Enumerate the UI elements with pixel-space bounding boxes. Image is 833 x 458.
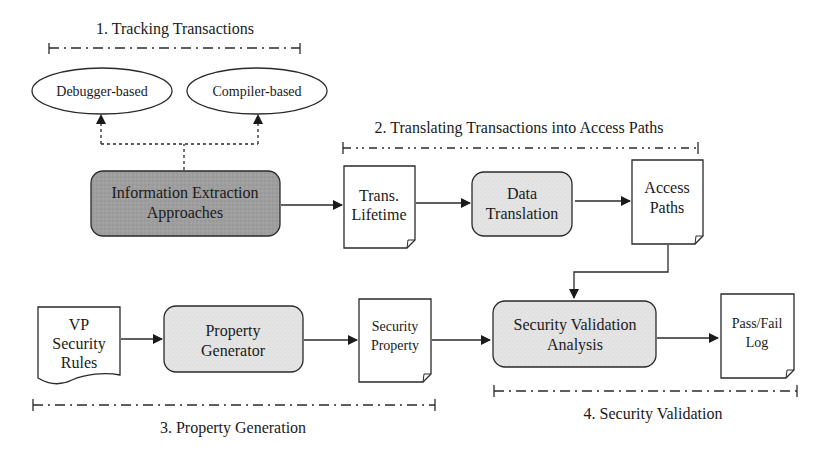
diagram-canvas: 1. Tracking Transactions Debugger-based …	[0, 0, 833, 458]
security-validation-line1: Security Validation	[514, 316, 637, 334]
trans-lifetime-line2: Lifetime	[351, 206, 406, 223]
process-information-extraction: Information Extraction Approaches	[91, 171, 280, 236]
ellipse-compiler-based: Compiler-based	[187, 68, 327, 114]
vp-rules-line3: Rules	[61, 354, 97, 371]
document-pass-fail-log: Pass/Fail Log	[721, 294, 794, 378]
stage-4-bracket: 4. Security Validation	[494, 385, 797, 423]
dotted-connectors	[101, 122, 258, 170]
security-property-line2: Property	[371, 338, 419, 353]
ellipse-debugger-based: Debugger-based	[32, 68, 172, 114]
trans-lifetime-line1: Trans.	[359, 187, 399, 204]
process-data-translation: Data Translation	[472, 172, 572, 236]
pass-fail-line1: Pass/Fail	[732, 316, 783, 331]
document-vp-security-rules: VP Security Rules	[38, 307, 120, 384]
stage-1-label: 1. Tracking Transactions	[96, 20, 254, 38]
stage-4-label: 4. Security Validation	[584, 405, 723, 423]
vp-rules-line2: Security	[52, 335, 105, 353]
info-extraction-line2: Approaches	[147, 204, 223, 222]
process-security-validation: Security Validation Analysis	[493, 301, 656, 367]
stage-3-bracket: 3. Property Generation	[33, 399, 435, 437]
info-extraction-line1: Information Extraction	[111, 184, 258, 201]
workflow-diagram: 1. Tracking Transactions Debugger-based …	[0, 0, 833, 458]
stage-1-bracket: 1. Tracking Transactions	[49, 20, 300, 54]
arrowhead-compiler	[253, 114, 263, 124]
access-paths-line2: Paths	[650, 199, 685, 216]
document-access-paths: Access Paths	[632, 160, 703, 244]
vp-rules-line1: VP	[69, 316, 90, 333]
process-property-generator: Property Generator	[164, 306, 303, 372]
stage-2-bracket: 2. Translating Transactions into Access …	[343, 119, 698, 154]
arrowhead-debugger	[96, 114, 106, 124]
property-generator-line2: Generator	[201, 342, 266, 359]
document-trans-lifetime: Trans. Lifetime	[344, 166, 415, 248]
pass-fail-line2: Log	[746, 335, 769, 350]
security-validation-line2: Analysis	[547, 336, 603, 354]
security-property-line1: Security	[372, 319, 419, 334]
compiler-based-label: Compiler-based	[212, 84, 301, 99]
document-security-property: Security Property	[359, 299, 431, 382]
debugger-based-label: Debugger-based	[56, 84, 147, 99]
stage-2-label: 2. Translating Transactions into Access …	[375, 119, 664, 137]
data-translation-line2: Translation	[486, 205, 558, 222]
stage-3-label: 3. Property Generation	[160, 419, 306, 437]
data-translation-line1: Data	[507, 185, 537, 202]
access-paths-line1: Access	[644, 179, 689, 196]
property-generator-line1: Property	[205, 322, 260, 340]
arrow-access-to-validation	[574, 245, 668, 298]
